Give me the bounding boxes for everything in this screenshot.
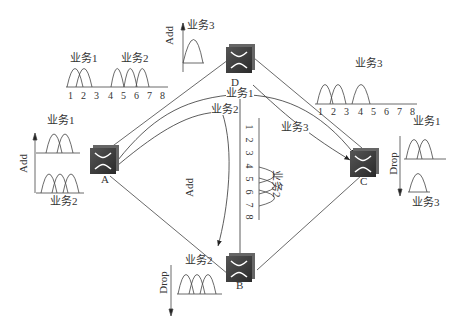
a-add-label: Add	[18, 154, 29, 173]
c-drop-spectrum	[398, 136, 446, 196]
b-drop-spectrum	[169, 265, 222, 316]
d-add-label: Add	[164, 26, 175, 45]
c-drop-label: Drop	[388, 152, 399, 175]
path-label-service1: 业务1	[226, 88, 254, 99]
switch-a-icon	[90, 145, 119, 174]
c-drop-service1: 业务1	[413, 116, 441, 127]
top-spectrum	[66, 69, 168, 88]
path-label-service3: 业务3	[281, 122, 309, 133]
right-spectrum-service: 业务3	[355, 58, 383, 69]
right-spectrum	[315, 85, 417, 105]
top-spectrum-service2: 业务2	[121, 53, 149, 64]
b-drop-label: Drop	[158, 271, 169, 294]
node-b-label: B	[236, 280, 243, 291]
center-spectrum-service: 业务2	[271, 170, 282, 198]
c-drop-service3: 业务3	[412, 197, 440, 208]
switch-d-icon	[226, 44, 255, 73]
node-a-label: A	[101, 174, 109, 185]
a-add-service2: 业务2	[50, 196, 78, 207]
b-drop-service: 业务2	[185, 255, 213, 266]
switch-b-icon	[226, 253, 255, 282]
top-spectrum-service1: 业务1	[70, 53, 98, 64]
a-add-service1: 业务1	[47, 115, 75, 126]
center-spectrum	[259, 118, 275, 220]
a-add-spectrum	[33, 133, 84, 193]
path-label-service2: 业务2	[211, 104, 239, 115]
d-add-service: 业务3	[187, 20, 215, 31]
roadm-network-diagram: A B C D 业务1 业务2 1 2 3 4 5 6 7 8 Add 业务3 …	[0, 0, 455, 327]
switch-c-icon	[350, 148, 379, 177]
node-c-label: C	[360, 176, 367, 187]
mid-add-label: Add	[184, 178, 195, 197]
